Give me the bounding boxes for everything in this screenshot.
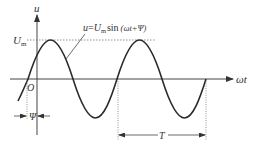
equation-label: u=Umsin(ωt+Ψ): [83, 22, 147, 34]
phase-label: Ψ: [29, 111, 37, 122]
x-axis-label: ωt: [236, 73, 248, 85]
amplitude-label: Um: [13, 34, 27, 48]
equation-leader-line: [66, 34, 85, 59]
origin-label: O: [27, 82, 34, 93]
y-axis-label: u: [34, 2, 40, 14]
period-label: T: [159, 130, 166, 141]
sine-wave-diagram: ωt u O Um u=Umsin(ωt+Ψ) Ψ T: [0, 0, 255, 148]
